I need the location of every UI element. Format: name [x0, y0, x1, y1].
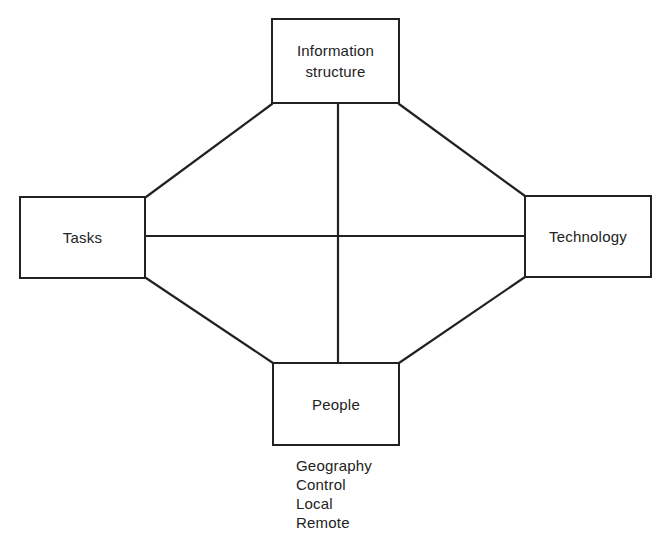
attribute-geography: Geography: [296, 456, 372, 475]
attribute-remote: Remote: [296, 513, 372, 532]
tasks-box: Tasks: [19, 196, 146, 279]
information-structure-label: Information structure: [297, 40, 374, 82]
people-box: People: [272, 362, 400, 446]
attribute-local: Local: [296, 494, 372, 513]
people-label: People: [312, 394, 360, 415]
attribute-control: Control: [296, 475, 372, 494]
edge-tasks-people: [146, 278, 273, 363]
edge-info-technology: [399, 104, 525, 196]
tasks-label: Tasks: [63, 227, 102, 248]
information-structure-box: Information structure: [271, 18, 400, 104]
technology-label: Technology: [549, 226, 627, 247]
edge-tasks-info: [146, 104, 272, 197]
edge-people-technology: [399, 277, 525, 363]
people-attributes-list: Geography Control Local Remote: [296, 456, 372, 532]
technology-box: Technology: [524, 195, 652, 278]
